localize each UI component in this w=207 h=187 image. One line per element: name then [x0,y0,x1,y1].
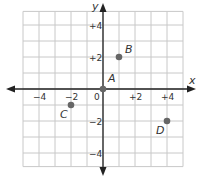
y-axis-down-arrow-icon [100,167,107,176]
point-c-marker [68,102,75,109]
x-tick-label: −2 [65,92,78,102]
point-a-marker [100,86,107,93]
point-c-label: C [60,108,68,121]
y-axis-label: y [91,0,99,13]
coordinate-plane: x y 0 −4−2+2+4 +4+2−2−4 ABCD [0,0,207,187]
y-axis-up-arrow-icon [100,3,107,12]
x-tick-labels: −4−2+2+4 [33,92,175,102]
x-tick-label: +4 [161,92,175,102]
point-a-label: A [107,72,116,85]
point-d-label: D [156,124,164,137]
x-axis-left-arrow-icon [6,86,15,93]
point-b-marker [116,54,123,61]
x-axis-label: x [188,74,196,87]
point-b-label: B [125,43,133,56]
y-tick-label: +4 [89,21,103,31]
origin-label: 0 [94,92,100,102]
x-tick-label: −4 [33,92,47,102]
y-tick-label: +2 [89,53,102,63]
y-tick-label: −2 [89,117,102,127]
point-d-marker [164,118,171,125]
y-tick-label: −4 [89,149,103,159]
x-tick-label: +2 [129,92,142,102]
